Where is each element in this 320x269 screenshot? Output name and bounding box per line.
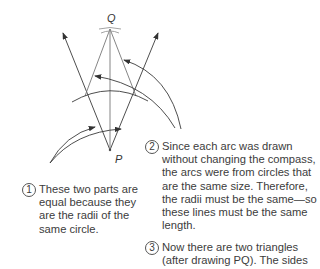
note-text-3: Now there are two triangles (after drawi… bbox=[162, 241, 308, 267]
right-radius-line bbox=[110, 29, 136, 96]
note-number-1: 1 bbox=[22, 183, 36, 197]
callout-arrow-2b bbox=[95, 76, 175, 128]
q-arc-top bbox=[99, 28, 121, 30]
note-text-1: These two parts are equal because they a… bbox=[39, 183, 138, 236]
note-number-3: 3 bbox=[145, 241, 159, 255]
point-p-label: P bbox=[115, 153, 122, 165]
point-q-label: Q bbox=[107, 12, 116, 24]
left-radius-line bbox=[85, 29, 110, 96]
callout-arrow-1a bbox=[50, 127, 95, 163]
note-number-2: 2 bbox=[145, 140, 159, 154]
note-text-2: Since each arc was drawn without changin… bbox=[162, 140, 317, 232]
